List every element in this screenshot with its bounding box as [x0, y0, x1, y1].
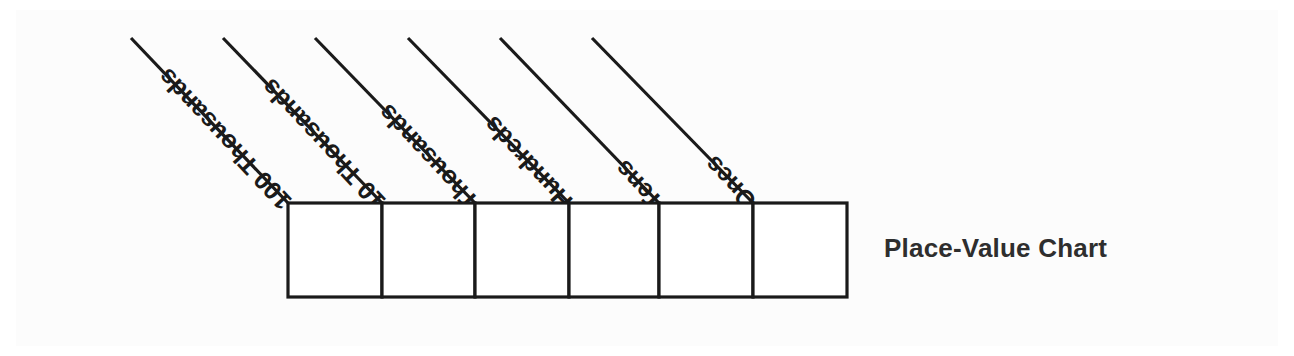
place-value-cell-100-thousands[interactable]: [288, 203, 382, 297]
column-label-hundreds: Hundreds: [478, 111, 578, 215]
place-value-cell-thousands[interactable]: [475, 203, 569, 297]
place-value-cell-10-thousands[interactable]: [382, 203, 475, 297]
place-value-cell-tens[interactable]: [659, 203, 753, 297]
place-value-cell-ones[interactable]: [753, 203, 847, 297]
figure-page: 100 Thousands 10 Thousands Thousands Hun…: [0, 0, 1294, 356]
figure-caption: Place-Value Chart: [884, 233, 1107, 264]
place-value-cell-hundreds[interactable]: [569, 203, 659, 297]
place-value-cells: [288, 203, 847, 297]
place-value-chart-diagram: 100 Thousands 10 Thousands Thousands Hun…: [0, 0, 1294, 356]
